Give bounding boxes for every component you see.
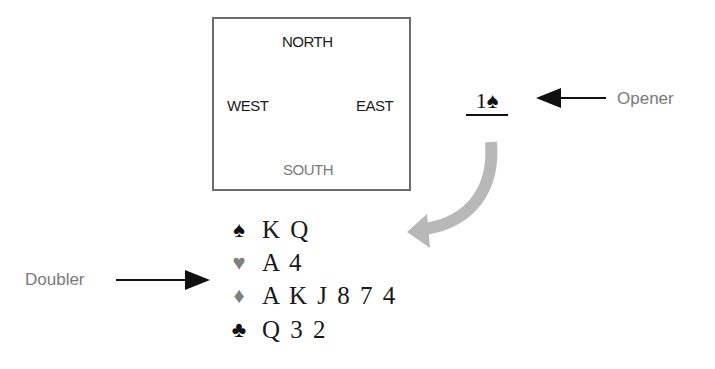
hand-row-hearts: ♥ A 4 xyxy=(226,248,303,278)
seat-east: EAST xyxy=(356,97,393,114)
seat-north: NORTH xyxy=(282,33,333,50)
seat-west: WEST xyxy=(227,97,268,114)
diamond-cards: A K J 8 7 4 xyxy=(262,281,397,311)
heart-icon: ♥ xyxy=(226,248,252,278)
opener-arrow-icon xyxy=(536,88,606,108)
hand-row-clubs: ♣ Q 3 2 xyxy=(226,315,328,345)
curved-arrow-icon xyxy=(407,142,491,248)
spade-cards: K Q xyxy=(262,215,310,245)
spade-icon: ♠ xyxy=(226,215,252,245)
diamond-icon: ♦ xyxy=(226,281,252,311)
heart-cards: A 4 xyxy=(262,248,303,278)
club-cards: Q 3 2 xyxy=(262,315,328,345)
club-icon: ♣ xyxy=(226,315,252,345)
seat-south: SOUTH xyxy=(283,161,333,178)
hand-row-diamonds: ♦ A K J 8 7 4 xyxy=(226,281,397,311)
opener-label: Opener xyxy=(617,89,674,109)
doubler-arrow-icon xyxy=(116,270,210,290)
opening-bid: 1♠ xyxy=(466,88,508,116)
hand-row-spades: ♠ K Q xyxy=(226,215,310,245)
doubler-label: Doubler xyxy=(25,270,85,290)
